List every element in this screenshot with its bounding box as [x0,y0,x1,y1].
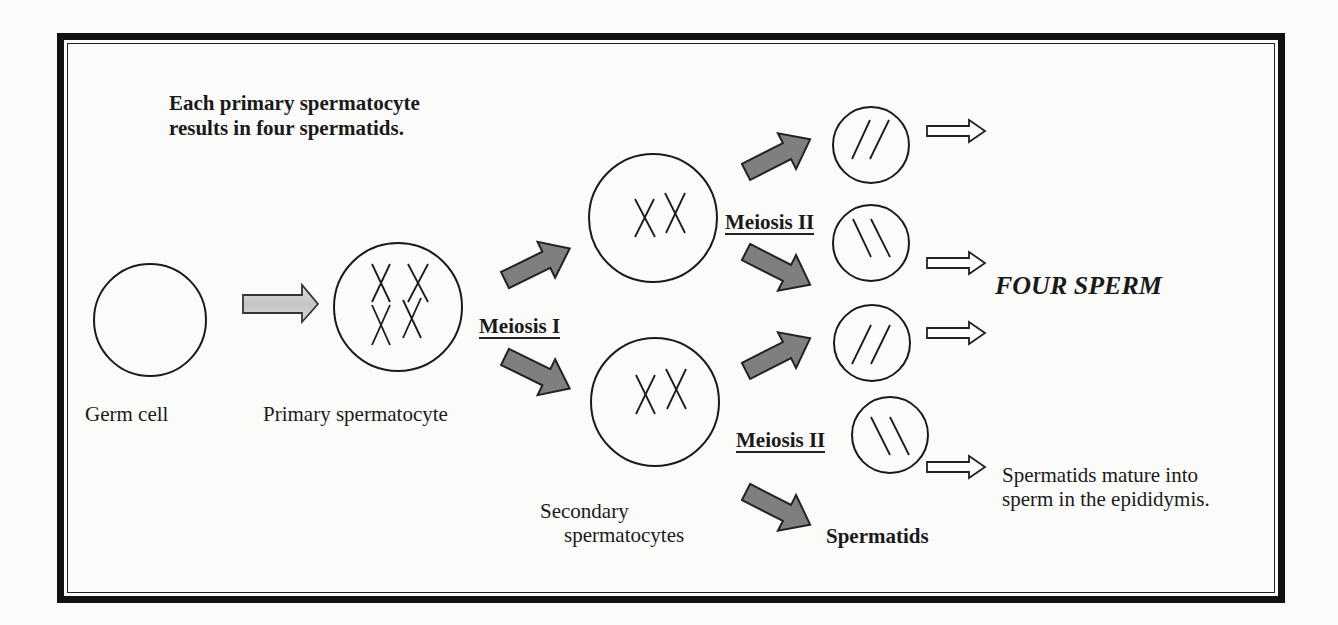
label-meiosis-2-lower: Meiosis II [736,430,825,453]
spermatid-3-cell [834,305,910,381]
arrow-meiosis2-lower-a-icon [737,320,819,388]
secondary-spermatocyte-upper-cell [589,154,717,282]
spermatid-1-cell [833,107,909,183]
xx-chromosomes-icon [636,369,686,414]
spermatid-4-cell [852,397,928,473]
arrow-meiosis1-lower-icon [496,339,578,407]
tetrad-chromosomes-icon [372,264,428,345]
arrow-germ-to-primary-icon [243,285,318,322]
arrow-meiosis1-upper-icon [496,230,578,298]
arrow-meiosis2-lower-b-icon [737,474,819,542]
hollow-arrow-3-icon [927,322,985,344]
hollow-arrow-4-icon [927,456,985,478]
hollow-arrow-1-icon [927,120,985,142]
germ-cell [94,264,206,376]
arrow-meiosis2-upper-a-icon [737,121,819,189]
label-primary-spermatocyte: Primary spermatocyte [263,403,448,427]
spermatid-2-cell [833,205,909,281]
secondary-spermatocyte-lower-cell [591,338,719,466]
label-secondary-line-1: Secondary [540,500,629,524]
label-meiosis-2-upper: Meiosis II [725,212,814,235]
diagram-canvas: Each primary spermatocyte results in fou… [0,0,1338,625]
xx-chromosomes-icon [635,193,685,237]
arrow-meiosis2-upper-b-icon [737,234,819,302]
label-mature-line-1: Spermatids mature into [1002,464,1198,488]
label-germ-cell: Germ cell [85,403,168,427]
primary-spermatocyte-cell [334,243,462,371]
hollow-arrow-2-icon [927,252,985,274]
label-spermatids: Spermatids [826,525,929,549]
label-four-sperm: FOUR SPERM [995,271,1162,300]
label-secondary-line-2: spermatocytes [564,524,684,548]
label-mature-line-2: sperm in the epididymis. [1002,488,1210,512]
heading-line-2: results in four spermatids. [169,117,404,141]
label-meiosis-1: Meiosis I [479,316,560,339]
heading-line-1: Each primary spermatocyte [169,92,420,116]
